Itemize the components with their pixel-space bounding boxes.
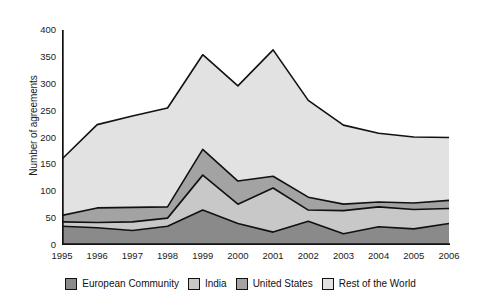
legend-label: India xyxy=(205,279,227,289)
x-tick-label: 2000 xyxy=(218,251,258,261)
x-tick-label: 1997 xyxy=(112,251,152,261)
x-axis-tick-labels: 1995199619971998199920002001200220032004… xyxy=(62,251,450,267)
legend-label: United States xyxy=(253,279,313,289)
legend-swatch-icon xyxy=(322,278,334,290)
legend-swatch-icon xyxy=(236,278,248,290)
x-tick-label: 2005 xyxy=(394,251,434,261)
x-tick-label: 2002 xyxy=(288,251,328,261)
legend-item[interactable]: Rest of the World xyxy=(322,278,416,290)
y-tick-label: 350 xyxy=(30,52,56,62)
y-tick-label: 100 xyxy=(30,186,56,196)
x-tick-label: 2006 xyxy=(429,251,469,261)
x-tick-label: 1998 xyxy=(148,251,188,261)
chart-legend: European CommunityIndiaUnited StatesRest… xyxy=(0,278,481,290)
x-tick-label: 1995 xyxy=(42,251,82,261)
legend-label: Rest of the World xyxy=(339,279,416,289)
legend-item[interactable]: India xyxy=(188,278,227,290)
x-tick-label: 2004 xyxy=(359,251,399,261)
y-tick-label: 0 xyxy=(30,240,56,250)
x-tick-label: 2001 xyxy=(253,251,293,261)
x-tick-label: 2003 xyxy=(323,251,363,261)
y-tick-label: 300 xyxy=(30,79,56,89)
y-tick-label: 150 xyxy=(30,159,56,169)
y-tick-label: 250 xyxy=(30,106,56,116)
y-tick-label: 400 xyxy=(30,25,56,35)
plot-svg xyxy=(62,30,450,245)
x-tick-label: 1999 xyxy=(183,251,223,261)
x-tick-label: 1996 xyxy=(77,251,117,261)
y-tick-label: 200 xyxy=(30,133,56,143)
y-tick-label: 50 xyxy=(30,213,56,223)
legend-label: European Community xyxy=(82,279,179,289)
legend-item[interactable]: United States xyxy=(236,278,313,290)
legend-item[interactable]: European Community xyxy=(65,278,179,290)
stacked-area-chart: Number of agreements 4003503002502001501… xyxy=(0,0,481,301)
legend-swatch-icon xyxy=(188,278,200,290)
plot-area xyxy=(62,30,450,245)
legend-swatch-icon xyxy=(65,278,77,290)
